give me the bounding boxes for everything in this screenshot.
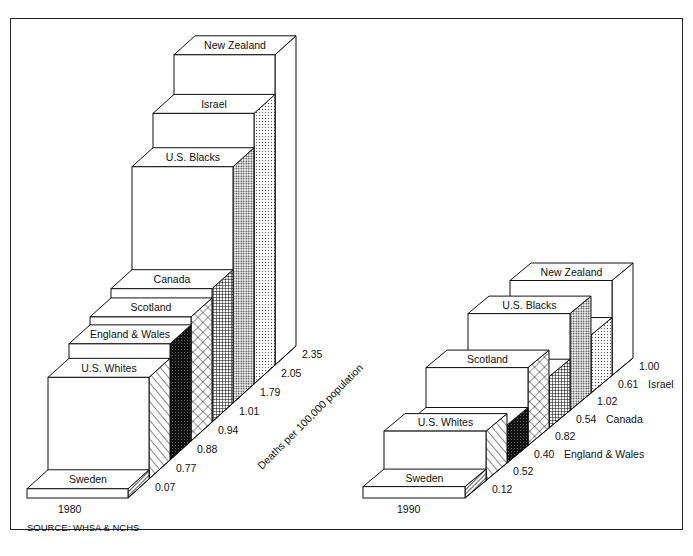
- bar-label: Scotland: [467, 353, 508, 365]
- bar-front-face: [48, 377, 149, 479]
- bar-side-face: [254, 94, 275, 384]
- bar-u-s-whites: U.S. Whites: [48, 358, 170, 479]
- category-side-label: Israel: [648, 378, 674, 390]
- bar-label: England & Wales: [90, 328, 170, 340]
- value-label: 0.88: [197, 443, 218, 455]
- category-side-label: England & Wales: [564, 448, 644, 460]
- bar-front-face: [363, 487, 465, 498]
- value-label: 1.01: [239, 405, 260, 417]
- chart-1990: New Zealand1.000.61IsraelU.S. Blacks1.02…: [363, 263, 674, 498]
- bar-sweden: Sweden: [27, 470, 149, 498]
- chart-1980: New Zealand2.35Israel2.05U.S. Blacks1.79…: [27, 36, 323, 498]
- value-label: 0.77: [176, 462, 197, 474]
- bar-side-face: [170, 325, 191, 460]
- value-label: 0.52: [513, 465, 534, 477]
- value-label: 2.35: [302, 348, 323, 360]
- bar-side-face: [570, 296, 591, 410]
- source-note: SOURCE: WHSA & NCHS: [27, 522, 139, 533]
- bar-label: Sweden: [69, 473, 107, 485]
- y-axis-label: Deaths per 100,000 population: [255, 361, 365, 471]
- category-side-label: Canada: [606, 413, 643, 425]
- bar-label: Canada: [154, 273, 191, 285]
- bar-label: U.S. Whites: [418, 416, 473, 428]
- year-label-1980: 1980: [58, 503, 81, 515]
- value-label: 0.40: [534, 448, 555, 460]
- year-label-1990: 1990: [397, 503, 420, 515]
- bar-front-face: [27, 489, 128, 498]
- bar-side-face: [275, 36, 296, 365]
- value-label: 2.05: [281, 367, 302, 379]
- bar-label: New Zealand: [541, 266, 603, 278]
- value-label: 1.00: [639, 360, 660, 372]
- bar-side-face: [233, 148, 254, 403]
- bar-label: U.S. Blacks: [166, 151, 220, 163]
- stepped-3d-bar-chart: New Zealand2.35Israel2.05U.S. Blacks1.79…: [0, 0, 693, 556]
- value-label: 0.12: [492, 483, 513, 495]
- bar-label: Scotland: [131, 301, 172, 313]
- value-label: 1.02: [597, 395, 618, 407]
- bar-label: Israel: [201, 98, 227, 110]
- bar-label: U.S. Whites: [81, 362, 136, 374]
- value-label: 0.54: [576, 413, 597, 425]
- bar-label: Sweden: [406, 472, 444, 484]
- value-label: 0.82: [555, 430, 576, 442]
- bar-side-face: [149, 358, 170, 479]
- value-label: 1.79: [260, 386, 281, 398]
- bar-side-face: [191, 298, 212, 441]
- bar-label: U.S. Blacks: [502, 299, 556, 311]
- value-label: 0.94: [218, 424, 239, 436]
- bar-label: New Zealand: [204, 39, 266, 51]
- bar-side-face: [212, 270, 233, 422]
- bar-sweden: Sweden: [363, 469, 486, 498]
- bar-side-face: [612, 263, 633, 376]
- value-label: 0.07: [155, 481, 176, 493]
- value-label: 0.61: [618, 378, 639, 390]
- axis-title-text: Deaths per 100,000 population: [255, 361, 365, 471]
